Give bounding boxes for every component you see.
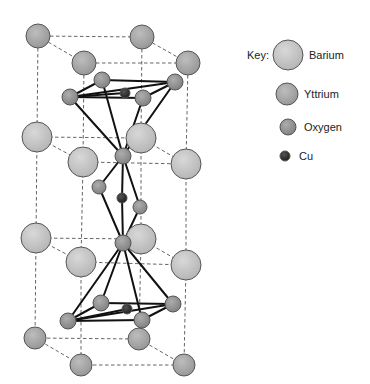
oxygen-atom: [134, 312, 150, 328]
oxygen-atom: [165, 296, 181, 312]
legend-label-oxygen: Oxygen: [304, 121, 342, 133]
legend-label-yttrium: Yttrium: [304, 88, 339, 100]
yttrium-atom: [128, 328, 150, 350]
barium-atom: [22, 122, 52, 152]
oxygen-atom: [133, 200, 147, 214]
oxygen-atom: [94, 72, 110, 88]
dashed-edge: [37, 137, 141, 138]
yttrium-atom: [72, 51, 96, 75]
yttrium-atom: [173, 354, 195, 376]
barium-atom: [171, 149, 201, 179]
legend-swatch-yttrium-icon: [276, 83, 298, 105]
yttrium-atom: [26, 24, 50, 48]
unit-cell-dashed-edges: [35, 36, 188, 365]
barium-atom: [126, 123, 156, 153]
oxygen-atom: [115, 235, 131, 251]
bond-line: [102, 80, 175, 82]
bond-line: [68, 309, 127, 321]
yttrium-atom: [176, 51, 200, 75]
legend-key: [273, 40, 303, 161]
yttrium-atom: [70, 354, 92, 376]
legend-swatch-oxygen-icon: [280, 119, 296, 135]
dashed-edge: [81, 262, 186, 265]
oxygen-atom: [93, 295, 109, 311]
oxygen-atom: [92, 180, 106, 194]
dashed-edge: [38, 36, 142, 37]
cu-atom: [120, 88, 130, 98]
bond-line: [101, 243, 123, 303]
bond-line: [101, 303, 173, 304]
cu-atom: [122, 304, 132, 314]
oxygen-atom: [115, 148, 131, 164]
legend-swatch-barium-icon: [273, 40, 303, 70]
cu-atom: [117, 193, 127, 203]
barium-atom: [21, 223, 51, 253]
dashed-edge: [35, 338, 139, 339]
legend-label-cu: Cu: [299, 150, 313, 162]
oxygen-atom: [60, 313, 76, 329]
yttrium-atom: [130, 25, 154, 49]
oxygen-atom: [62, 89, 78, 105]
legend-swatch-cu-icon: [280, 151, 290, 161]
yttrium-atom: [24, 327, 46, 349]
legend-title: Key:: [247, 49, 269, 61]
legend-label-barium: Barium: [309, 49, 344, 61]
barium-atom: [171, 250, 201, 280]
barium-atom: [68, 147, 98, 177]
atoms: [21, 24, 201, 376]
barium-atom: [66, 247, 96, 277]
oxygen-atom: [167, 74, 183, 90]
oxygen-atom: [135, 90, 151, 106]
